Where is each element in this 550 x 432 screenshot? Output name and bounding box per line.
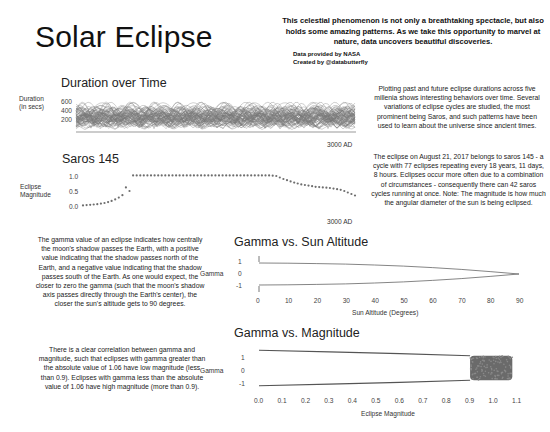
gamma-altitude-xtick: 0	[256, 297, 260, 304]
duration-ytick: 200	[61, 116, 72, 123]
gamma-magnitude-xtick: 0.2	[301, 397, 310, 404]
saros-ylabel: Eclipse Magnitude	[20, 183, 51, 199]
gamma-altitude-xtick: 50	[400, 297, 407, 304]
gamma-magnitude-xtick: 0.0	[254, 397, 263, 404]
gamma-magnitude-xtick: 0.6	[395, 397, 404, 404]
gamma-altitude-ytick: -1	[236, 282, 242, 289]
saros-chart-title: Saros 145	[62, 152, 119, 166]
gamma-magnitude-description: There is a clear correlation between gam…	[37, 345, 207, 391]
duration-chart	[76, 92, 356, 132]
gamma-altitude-xtick: 20	[314, 297, 321, 304]
gamma-magnitude-xtick: 0.4	[348, 397, 357, 404]
gamma-magnitude-xlabel: Eclipse Magnitude	[361, 410, 415, 418]
gamma-altitude-ylabel: Gamma	[200, 270, 223, 278]
duration-end-label: 3000 AD	[327, 141, 352, 148]
duration-ylabel: Duration (in secs)	[19, 95, 44, 111]
gamma-altitude-chart	[255, 254, 525, 294]
gamma-magnitude-xtick: 0.1	[277, 397, 286, 404]
gamma-altitude-xlabel: Sun Altitude (Degrees)	[352, 309, 418, 317]
duration-ytick: 400	[61, 107, 72, 114]
gamma-altitude-ytick: 1	[238, 258, 242, 265]
saros-chart	[80, 170, 360, 210]
gamma-magnitude-ytick: -1	[239, 380, 245, 387]
gamma-magnitude-xtick: 0.5	[371, 397, 380, 404]
gamma-altitude-chart-title: Gamma vs. Sun Altitude	[234, 235, 368, 249]
gamma-magnitude-ytick: 1	[241, 354, 245, 361]
saros-end-label: 3000 AD	[327, 218, 352, 225]
gamma-magnitude-xtick: 0.8	[442, 397, 451, 404]
gamma-altitude-xtick: 80	[487, 297, 494, 304]
gamma-altitude-xtick: 70	[458, 297, 465, 304]
gamma-magnitude-xtick: 0.3	[324, 397, 333, 404]
gamma-magnitude-xtick: 1.1	[512, 397, 521, 404]
credits: Data provided by NASA Created by @databu…	[293, 51, 368, 66]
page-title: Solar Eclipse	[35, 20, 213, 54]
gamma-altitude-xtick: 90	[516, 297, 523, 304]
gamma-magnitude-xtick: 0.7	[418, 397, 427, 404]
gamma-altitude-xticks: 0102030405060708090	[0, 297, 550, 307]
gamma-altitude-ytick: 0	[238, 270, 242, 277]
gamma-magnitude-xtick: 0.9	[465, 397, 474, 404]
gamma-altitude-xtick: 40	[372, 297, 379, 304]
gamma-magnitude-ytick: 0	[241, 367, 245, 374]
duration-ytick: 600	[61, 98, 72, 105]
gamma-magnitude-xticks: 0.00.10.20.30.40.50.60.70.80.91.01.1	[0, 397, 550, 407]
gamma-magnitude-chart-title: Gamma vs. Magnitude	[234, 326, 360, 340]
gamma-altitude-xtick: 10	[285, 297, 292, 304]
saros-ytick: 1.0	[69, 173, 78, 180]
intro-text: This celestial phenomenon is not only a …	[282, 16, 544, 48]
saros-ytick: 0.5	[69, 188, 78, 195]
gamma-altitude-xtick: 60	[429, 297, 436, 304]
gamma-magnitude-xtick: 1.0	[489, 397, 498, 404]
credit-creator: Created by @databutterfly	[293, 59, 368, 67]
duration-description: Plotting past and future eclipse duratio…	[372, 84, 542, 130]
credit-data-source: Data provided by NASA	[293, 51, 368, 59]
gamma-magnitude-chart	[255, 345, 535, 395]
gamma-magnitude-ylabel: Gamma	[200, 367, 223, 375]
saros-description: The eclipse on August 21, 2017 belongs t…	[371, 152, 546, 207]
saros-ytick: 0.0	[69, 203, 78, 210]
duration-chart-title: Duration over Time	[61, 76, 167, 90]
gamma-altitude-xtick: 30	[343, 297, 350, 304]
